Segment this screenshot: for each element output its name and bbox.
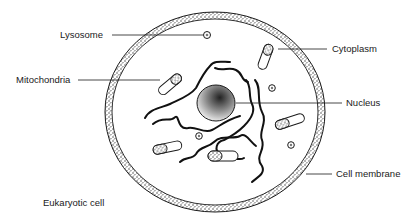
eukaryotic-cell-diagram: Lysosome Mitochondria Cytoplasm Nucleus … xyxy=(0,0,414,222)
label-cell-membrane: Cell membrane xyxy=(336,169,400,179)
diagram-title: Eukaryotic cell xyxy=(43,198,104,208)
label-lysosome: Lysosome xyxy=(60,30,103,40)
label-nucleus: Nucleus xyxy=(346,98,380,108)
label-mitochondria: Mitochondria xyxy=(16,75,70,85)
nucleus xyxy=(197,85,235,121)
label-cytoplasm: Cytoplasm xyxy=(332,44,377,54)
